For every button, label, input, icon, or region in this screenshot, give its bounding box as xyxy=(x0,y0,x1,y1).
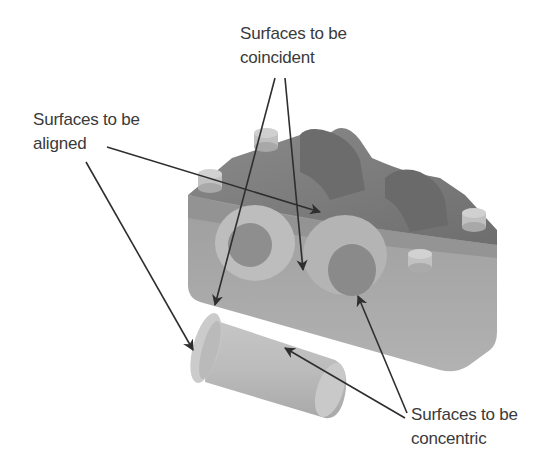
arrow-aligned-bushing xyxy=(86,162,193,350)
label-coincident-line1: Surfaces to be xyxy=(240,22,347,46)
label-concentric-line1: Surfaces to be xyxy=(411,403,518,427)
pin-front-right xyxy=(408,249,432,273)
label-concentric-line2: concentric xyxy=(411,427,518,451)
pin-back-left xyxy=(254,128,278,152)
label-coincident: Surfaces to be coincident xyxy=(240,22,347,70)
label-aligned-line2: aligned xyxy=(33,132,140,156)
label-aligned-line1: Surfaces to be xyxy=(33,108,140,132)
label-concentric: Surfaces to be concentric xyxy=(411,403,518,451)
label-coincident-line2: coincident xyxy=(240,46,347,70)
label-aligned: Surfaces to be aligned xyxy=(33,108,140,156)
pin-back-right xyxy=(462,208,486,232)
left-bore xyxy=(215,205,295,281)
diagram-canvas: Surfaces to be coincident Surfaces to be… xyxy=(0,0,553,458)
